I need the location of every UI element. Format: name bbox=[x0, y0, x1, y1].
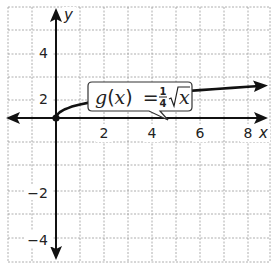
fraction-numerator: 1 bbox=[160, 86, 167, 97]
x-tick-6: 6 bbox=[196, 125, 205, 141]
function-callout: g(x) = 1 4 x bbox=[88, 82, 192, 120]
x-tick-8: 8 bbox=[244, 125, 253, 141]
x-tick-4: 4 bbox=[148, 125, 157, 141]
y-tick-neg4: −4 bbox=[27, 232, 48, 248]
radicand: x bbox=[179, 86, 190, 108]
callout-equation: g(x) = bbox=[95, 86, 159, 108]
y-tick-neg2: −2 bbox=[27, 185, 48, 201]
start-point-dot bbox=[52, 114, 59, 121]
y-tick-2: 2 bbox=[39, 91, 48, 107]
x-tick-2: 2 bbox=[100, 125, 109, 141]
x-axis-label: x bbox=[258, 124, 268, 142]
fraction-denominator: 4 bbox=[160, 98, 167, 109]
y-tick-4: 4 bbox=[39, 45, 48, 61]
function-graph: 2 4 6 8 4 2 −2 −4 y x g(x) = 1 4 x bbox=[0, 0, 271, 268]
y-axis-label: y bbox=[63, 6, 74, 24]
y-tick-labels: 4 2 −2 −4 bbox=[24, 44, 52, 248]
